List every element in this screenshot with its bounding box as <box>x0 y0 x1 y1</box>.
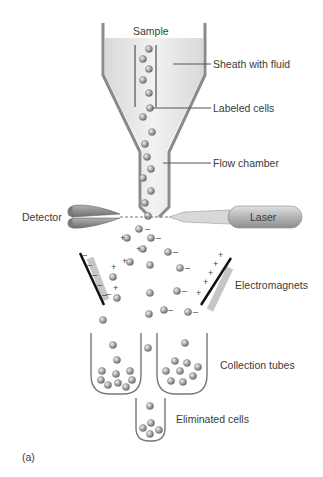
label-flow-chamber: Flow chamber <box>213 158 279 169</box>
svg-text:+: + <box>120 233 125 243</box>
label-sheath-with-fluid: Sheath with fluid <box>213 59 290 70</box>
svg-text:+: + <box>213 259 218 269</box>
svg-text:+: + <box>218 250 223 260</box>
svg-text:+: + <box>136 244 141 254</box>
svg-text:+: + <box>122 256 127 266</box>
label-electromagnets: Electromagnets <box>235 280 308 291</box>
diagram-canvas: – + – + – + – + + – – – – – – – – – + + … <box>0 0 323 477</box>
svg-text:+: + <box>196 288 201 298</box>
svg-text:–: – <box>168 305 173 315</box>
svg-text:–: – <box>92 270 97 280</box>
svg-text:–: – <box>145 224 150 234</box>
svg-text:–: – <box>102 290 107 300</box>
svg-text:–: – <box>156 233 161 243</box>
collection-tube-left <box>91 333 141 394</box>
label-eliminated-cells: Eliminated cells <box>176 414 249 425</box>
svg-text:+: + <box>208 268 213 278</box>
label-collection-tubes: Collection tubes <box>220 360 295 371</box>
label-laser: Laser <box>250 212 276 223</box>
flow-cytometry-diagram: – + – + – + – + + – – – – – – – – – + + … <box>0 0 323 477</box>
svg-text:–: – <box>173 247 178 257</box>
svg-text:–: – <box>87 260 92 270</box>
laser-icon <box>169 206 302 228</box>
collection-tube-right <box>157 333 207 394</box>
charged-droplets <box>99 225 191 323</box>
svg-text:+: + <box>203 277 208 287</box>
svg-text:+: + <box>111 262 116 272</box>
svg-text:–: – <box>182 286 187 296</box>
svg-text:–: – <box>97 280 102 290</box>
label-detector: Detector <box>22 212 62 223</box>
eliminated-cells-tube <box>136 398 165 441</box>
label-labeled-cells: Labeled cells <box>213 103 274 114</box>
svg-text:–: – <box>193 307 198 317</box>
falling-cell <box>144 344 151 351</box>
svg-text:–: – <box>185 263 190 273</box>
detector-icon <box>68 205 121 228</box>
svg-text:+: + <box>113 283 118 293</box>
svg-text:–: – <box>82 250 87 260</box>
label-sample: Sample <box>133 26 169 37</box>
panel-label: (a) <box>22 452 35 463</box>
